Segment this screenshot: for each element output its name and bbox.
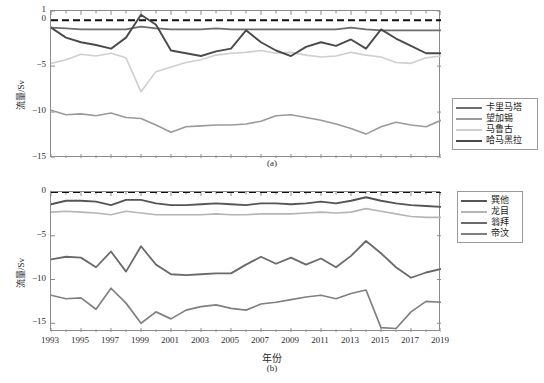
panel-a-plot-frame xyxy=(50,10,440,157)
panel-a-legend-item-2[interactable]: 望加锡 xyxy=(456,113,533,124)
panel-a-plot-area xyxy=(51,11,441,158)
series-line-2 xyxy=(51,110,441,134)
x-tick-label: 1999 xyxy=(124,335,156,345)
series-line-3 xyxy=(51,241,441,278)
panel-a-legend-item-1[interactable]: 卡里马塔 xyxy=(456,102,533,113)
legend-label: 卡里马塔 xyxy=(486,102,522,113)
series-line-3 xyxy=(51,51,441,92)
panel-b-tag: (b) xyxy=(0,363,544,373)
legend-label: 望加锡 xyxy=(486,113,513,124)
y-tick-label: −5 xyxy=(16,229,46,239)
legend-color-swatch xyxy=(456,129,482,131)
legend-color-swatch xyxy=(461,211,487,213)
x-tick-label: 1995 xyxy=(64,335,96,345)
x-tick-label: 2009 xyxy=(274,335,306,345)
x-tick-label: 2011 xyxy=(304,335,336,345)
panel-a-legend-item-3[interactable]: 马鲁古 xyxy=(456,124,533,135)
legend-color-swatch xyxy=(456,140,482,142)
panel-b-legend-item-4[interactable]: 帝汶 xyxy=(461,228,518,239)
y-tick-label: 0 xyxy=(16,185,46,195)
x-tick-label: 2015 xyxy=(364,335,396,345)
panel-b-legend-item-1[interactable]: 巽他 xyxy=(461,195,518,206)
series-line-2 xyxy=(51,209,441,218)
y-tick-label: −5 xyxy=(16,59,46,69)
x-tick-label: 1997 xyxy=(94,335,126,345)
panel-a-tag: (a) xyxy=(0,158,544,168)
legend-label: 龙目 xyxy=(491,206,509,217)
panel-b-plot-frame xyxy=(50,191,440,331)
x-tick-label: 2005 xyxy=(214,335,246,345)
y-tick-label: −10 xyxy=(16,105,46,115)
panel-b-legend: 巽他龙目翁拜帝汶 xyxy=(457,191,523,243)
figure-canvas: 流量/Sv 10−5−10−15 (a) 卡里马塔望加锡马鲁古哈马黑拉 流量/S… xyxy=(0,0,544,383)
legend-color-swatch xyxy=(461,233,487,235)
legend-color-swatch xyxy=(461,200,487,202)
legend-label: 巽他 xyxy=(491,195,509,206)
x-tick-label: 2001 xyxy=(154,335,186,345)
y-tick-label: 0 xyxy=(16,13,46,23)
legend-label: 哈马黑拉 xyxy=(486,135,522,146)
y-tick-label: −10 xyxy=(16,273,46,283)
panel-a: 流量/Sv 10−5−10−15 (a) 卡里马塔望加锡马鲁古哈马黑拉 xyxy=(0,0,544,175)
x-tick-label: 2003 xyxy=(184,335,216,345)
panel-b-plot-area xyxy=(51,192,441,332)
panel-a-legend: 卡里马塔望加锡马鲁古哈马黑拉 xyxy=(452,98,538,150)
x-tick-label: 2007 xyxy=(244,335,276,345)
legend-color-swatch xyxy=(456,118,482,120)
x-tick-label: 2013 xyxy=(334,335,366,345)
x-tick-label: 2017 xyxy=(394,335,426,345)
panel-b-legend-item-3[interactable]: 翁拜 xyxy=(461,217,518,228)
legend-label: 翁拜 xyxy=(491,217,509,228)
legend-color-swatch xyxy=(461,222,487,224)
x-tick-label: 1993 xyxy=(34,335,66,345)
panel-b-legend-item-2[interactable]: 龙目 xyxy=(461,206,518,217)
y-tick-label: −15 xyxy=(16,316,46,326)
panel-b: 流量/Sv 0−5−10−15 199319951997199920012003… xyxy=(0,183,544,383)
series-line-1 xyxy=(51,197,441,207)
legend-label: 马鲁古 xyxy=(486,124,513,135)
legend-label: 帝汶 xyxy=(491,228,509,239)
series-line-4 xyxy=(51,288,441,328)
legend-color-swatch xyxy=(456,107,482,109)
x-tick-label: 2019 xyxy=(424,335,456,345)
panel-a-legend-item-4[interactable]: 哈马黑拉 xyxy=(456,135,533,146)
